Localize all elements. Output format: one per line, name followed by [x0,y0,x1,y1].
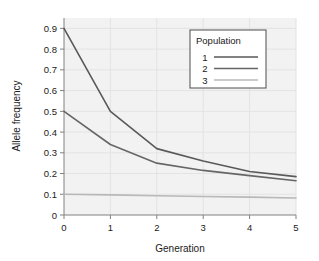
x-tick-label: 0 [61,222,66,233]
legend-label-3: 3 [202,75,207,86]
y-tick-label: 0 [52,210,57,221]
y-tick-label: 0.5 [44,106,57,117]
x-tick-label: 4 [247,222,252,233]
allele-frequency-line-chart: 00.10.20.30.40.50.60.70.80.9 012345 Alle… [0,0,319,261]
y-tick-label: 0.9 [44,23,57,34]
legend-label-2: 2 [202,63,207,74]
legend-title: Population [196,35,241,46]
y-tick-label: 0.4 [44,127,57,138]
x-tick-label: 1 [108,222,113,233]
y-axis-title: Allele frequency [11,80,22,151]
y-tick-label: 0.1 [44,189,57,200]
legend[interactable]: Population 123 [190,30,266,88]
y-tick-label: 0.7 [44,64,57,75]
x-tick-label: 2 [154,222,159,233]
y-tick-label: 0.8 [44,44,57,55]
x-tick-label: 3 [201,222,206,233]
y-tick-label: 0.2 [44,168,57,179]
x-axis-title: Generation [155,243,204,254]
y-tick-label: 0.6 [44,85,57,96]
legend-label-1: 1 [202,52,207,63]
x-tick-label: 5 [293,222,298,233]
y-tick-label: 0.3 [44,147,57,158]
